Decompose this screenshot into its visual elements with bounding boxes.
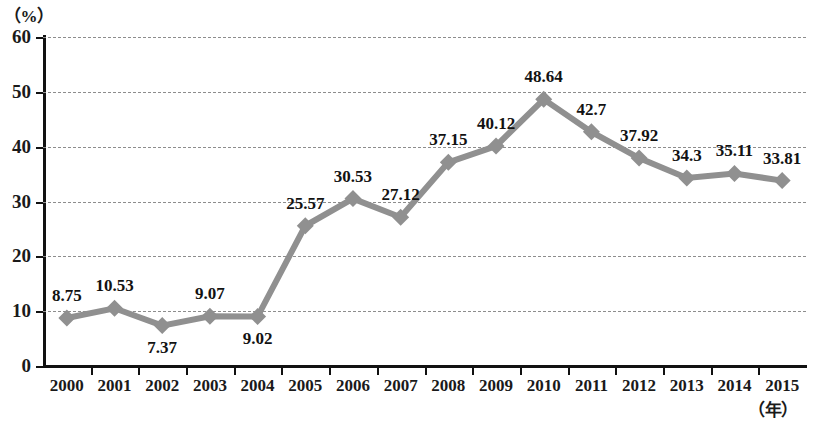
x-tick-label: 2013 [670, 376, 704, 396]
x-tick [425, 366, 427, 375]
y-axis-unit-label: （%） [4, 2, 54, 27]
x-tick [186, 366, 188, 375]
y-tick-label: 0 [22, 355, 32, 377]
data-point-label: 35.11 [716, 141, 753, 161]
x-tick-label: 2003 [193, 376, 227, 396]
x-tick-label: 2000 [50, 376, 84, 396]
data-point-label: 48.64 [525, 67, 563, 87]
x-tick-label: 2010 [527, 376, 561, 396]
series-polyline [67, 99, 782, 325]
y-tick-label: 20 [12, 245, 31, 267]
y-tick [36, 147, 43, 149]
y-tick [36, 311, 43, 313]
data-point-label: 8.75 [52, 286, 82, 306]
x-tick [91, 366, 93, 375]
x-tick [138, 366, 140, 375]
data-point-label: 30.53 [334, 167, 372, 187]
x-tick [329, 366, 331, 375]
x-tick [711, 366, 713, 375]
data-point-marker [154, 317, 171, 334]
data-point-label: 34.3 [672, 146, 702, 166]
data-point-label: 10.53 [95, 276, 133, 296]
x-tick [234, 366, 236, 375]
x-tick [568, 366, 570, 375]
x-tick-label: 2005 [288, 376, 322, 396]
data-point-label: 33.81 [763, 149, 801, 169]
data-point-marker [774, 172, 791, 189]
series-markers [58, 91, 790, 334]
data-point-label: 7.37 [147, 338, 177, 358]
data-point-marker [678, 169, 695, 186]
data-point-label: 27.12 [382, 185, 420, 205]
y-tick-label: 30 [12, 191, 31, 213]
y-tick [36, 92, 43, 94]
data-point-marker [201, 308, 218, 325]
x-tick [281, 366, 283, 375]
x-tick-label: 2004 [241, 376, 275, 396]
y-tick-label: 40 [12, 136, 31, 158]
data-point-label: 40.12 [477, 114, 515, 134]
x-tick [520, 366, 522, 375]
data-point-marker [726, 165, 743, 182]
x-tick-label: 2008 [431, 376, 465, 396]
x-tick-label: 2001 [98, 376, 132, 396]
line-chart-figure: （%） （年） 0102030405060 200020012002200320… [0, 0, 818, 424]
y-tick [36, 202, 43, 204]
y-tick-label: 60 [12, 26, 31, 48]
data-point-label: 25.57 [286, 194, 324, 214]
data-series-line [43, 37, 806, 366]
data-point-marker [58, 310, 75, 327]
data-point-label: 37.92 [620, 126, 658, 146]
x-tick-label: 2011 [575, 376, 608, 396]
x-tick-label: 2007 [384, 376, 418, 396]
y-tick [36, 256, 43, 258]
x-tick-label: 2012 [622, 376, 656, 396]
y-tick [36, 366, 43, 368]
data-point-marker [106, 300, 123, 317]
plot-area: 0102030405060 [43, 37, 806, 366]
x-tick [472, 366, 474, 375]
x-axis-unit-label: （年） [748, 396, 798, 421]
y-tick [36, 37, 43, 39]
x-tick-label: 2006 [336, 376, 370, 396]
y-tick-label: 50 [12, 81, 31, 103]
y-tick-label: 10 [12, 300, 31, 322]
x-tick [663, 366, 665, 375]
data-point-label: 9.02 [243, 329, 273, 349]
x-tick [615, 366, 617, 375]
x-tick-label: 2014 [717, 376, 751, 396]
x-tick-label: 2009 [479, 376, 513, 396]
x-tick [758, 366, 760, 375]
data-point-label: 42.7 [577, 100, 607, 120]
x-tick-label: 2015 [765, 376, 799, 396]
x-tick-label: 2002 [145, 376, 179, 396]
data-point-label: 9.07 [195, 284, 225, 304]
x-tick [377, 366, 379, 375]
data-point-label: 37.15 [429, 130, 467, 150]
